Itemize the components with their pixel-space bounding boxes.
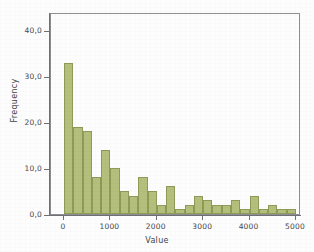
histogram-bar <box>64 63 73 215</box>
histogram-bar <box>231 200 240 214</box>
x-axis-line <box>50 215 301 216</box>
histogram-bar <box>101 150 110 214</box>
x-axis-tick-label: 2000 <box>146 222 166 231</box>
plot-area <box>50 13 300 215</box>
histogram-figure: 0,010,020,030,040,0 01000200030004000500… <box>0 0 314 252</box>
y-axis-tick <box>44 169 49 170</box>
histogram-bar <box>185 205 194 214</box>
y-axis-tick <box>44 31 49 32</box>
histogram-bar <box>259 209 268 214</box>
x-axis-tick <box>295 216 296 220</box>
histogram-bar <box>92 177 101 214</box>
histogram-bar <box>203 200 212 214</box>
histogram-bar <box>268 205 277 214</box>
histogram-bar <box>120 191 129 214</box>
histogram-bar <box>175 209 184 214</box>
y-axis-tick <box>44 215 49 216</box>
histogram-bar <box>287 209 296 214</box>
histogram-bar <box>212 205 221 214</box>
y-axis-tick-label: 10,0 <box>25 165 43 173</box>
histogram-bar <box>250 196 259 214</box>
x-axis-tick <box>249 216 250 220</box>
y-axis-title: Frequency <box>10 61 19 141</box>
histogram-bar <box>166 186 175 214</box>
x-axis-tick-label: 1000 <box>99 222 119 231</box>
y-axis-tick-label: 40,0 <box>25 27 43 35</box>
histogram-bar <box>277 209 286 214</box>
x-axis-tick-label: 0 <box>61 222 66 231</box>
y-axis-tick-label: 30,0 <box>25 73 43 81</box>
histogram-bar <box>157 205 166 214</box>
y-axis-line <box>49 13 50 216</box>
x-axis-tick <box>63 216 64 220</box>
histogram-bar <box>240 209 249 214</box>
histogram-bar <box>138 177 147 214</box>
y-axis-tick-label: 0,0 <box>29 211 42 219</box>
x-axis-tick <box>156 216 157 220</box>
histogram-bar <box>73 127 82 214</box>
x-axis-tick-label: 5000 <box>285 222 305 231</box>
x-axis-tick-label: 3000 <box>192 222 212 231</box>
histogram-bar <box>110 168 119 214</box>
histogram-bar <box>194 196 203 214</box>
x-axis-tick-label: 4000 <box>239 222 259 231</box>
bars-container <box>51 14 299 214</box>
histogram-bar <box>83 131 92 214</box>
histogram-bar <box>222 205 231 214</box>
y-axis-tick <box>44 77 49 78</box>
y-axis-tick-label: 20,0 <box>25 119 43 127</box>
histogram-bar <box>129 196 138 214</box>
x-axis-tick <box>109 216 110 220</box>
y-axis-tick <box>44 123 49 124</box>
histogram-bar <box>148 191 157 214</box>
x-axis-title: Value <box>0 236 314 245</box>
x-axis-tick <box>202 216 203 220</box>
